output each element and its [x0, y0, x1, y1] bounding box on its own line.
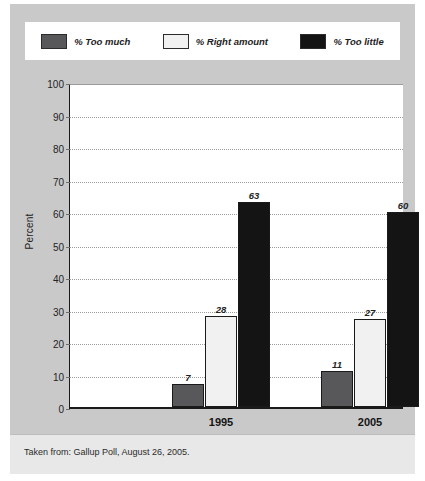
- y-axis-tick-mark: [66, 84, 70, 85]
- y-axis-tick-mark: [66, 182, 70, 183]
- bar: 60: [387, 212, 419, 407]
- plot-area: 1009080706050403020100728631995112760200…: [69, 84, 403, 409]
- bar-group: 728631995: [172, 84, 270, 407]
- y-axis-tick-label: 20: [53, 339, 64, 350]
- bar-group: 1127602005: [321, 84, 419, 407]
- y-axis-tick-mark: [66, 312, 70, 313]
- y-axis-tick-label: 40: [53, 274, 64, 285]
- y-axis-tick-mark: [66, 409, 70, 410]
- bar: 28: [205, 316, 237, 407]
- y-axis-tick-mark: [66, 279, 70, 280]
- source-note: Taken from: Gallup Poll, August 26, 2005…: [24, 447, 190, 457]
- y-axis-tick-mark: [66, 149, 70, 150]
- y-axis-tick-label: 0: [58, 404, 64, 415]
- y-axis-tick-label: 10: [53, 371, 64, 382]
- bar-value-label: 7: [185, 372, 190, 383]
- y-axis-tick-mark: [66, 117, 70, 118]
- x-axis-tick-label: 1995: [209, 416, 233, 428]
- y-axis-title: Percent: [24, 192, 35, 272]
- y-axis-tick-mark: [66, 247, 70, 248]
- bar-value-label: 11: [332, 359, 342, 370]
- y-axis-tick-label: 30: [53, 306, 64, 317]
- bar: 7: [172, 384, 204, 407]
- y-axis-tick-label: 60: [53, 209, 64, 220]
- bar-value-label: 28: [216, 304, 227, 315]
- plot-area-wrapper: Percent 10090807060504030201007286319951…: [10, 4, 415, 474]
- y-axis-tick-label: 80: [53, 144, 64, 155]
- bar: 11: [321, 371, 353, 407]
- bar: 63: [238, 202, 270, 407]
- bar-value-label: 63: [249, 190, 260, 201]
- y-axis-tick-label: 90: [53, 111, 64, 122]
- y-axis-tick-mark: [66, 344, 70, 345]
- y-axis-tick-label: 50: [53, 241, 64, 252]
- chart-figure: % Too much % Right amount % Too little P…: [10, 4, 415, 474]
- x-axis-tick-label: 2005: [358, 416, 382, 428]
- y-axis-tick-mark: [66, 377, 70, 378]
- y-axis-tick-mark: [66, 214, 70, 215]
- bar-value-label: 27: [365, 307, 376, 318]
- y-axis-tick-label: 70: [53, 176, 64, 187]
- bar: 27: [354, 319, 386, 407]
- bar-value-label: 60: [398, 200, 409, 211]
- chart-footer: Taken from: Gallup Poll, August 26, 2005…: [10, 434, 415, 474]
- y-axis-tick-label: 100: [47, 79, 64, 90]
